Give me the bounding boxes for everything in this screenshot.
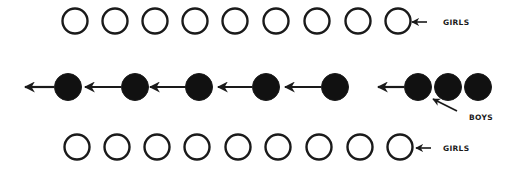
girl-circle bbox=[63, 9, 88, 34]
girls-label-bottom: GIRLS bbox=[443, 144, 469, 153]
girl-circle bbox=[65, 135, 90, 160]
boy-circle bbox=[322, 74, 349, 101]
girl-circle bbox=[145, 135, 170, 160]
boy-circle bbox=[122, 74, 149, 101]
boy-circle bbox=[405, 74, 432, 101]
girl-circle bbox=[223, 9, 248, 34]
girl-circle bbox=[105, 135, 130, 160]
boy-circle bbox=[465, 74, 492, 101]
rows-layer bbox=[25, 9, 492, 160]
girl-circle bbox=[185, 135, 210, 160]
girl-circle bbox=[307, 135, 332, 160]
girl-circle bbox=[305, 9, 330, 34]
girls-label-top: GIRLS bbox=[443, 18, 469, 27]
girl-circle bbox=[388, 135, 413, 160]
boy-circle bbox=[186, 74, 213, 101]
girl-circle bbox=[266, 135, 291, 160]
girl-circle bbox=[264, 9, 289, 34]
girl-circle bbox=[143, 9, 168, 34]
boy-circle bbox=[435, 74, 462, 101]
middle-boys-row bbox=[25, 74, 492, 112]
boys-label: BOYS bbox=[469, 113, 493, 122]
girl-circle bbox=[103, 9, 128, 34]
girl-circle bbox=[226, 135, 251, 160]
boy-circle bbox=[55, 74, 82, 101]
bottom-girls-row bbox=[65, 135, 432, 160]
boy-circle bbox=[253, 74, 280, 101]
girl-circle bbox=[386, 9, 411, 34]
formation-diagram: GIRLS BOYS GIRLS bbox=[0, 0, 514, 173]
top-girls-row bbox=[63, 9, 428, 34]
girl-circle bbox=[348, 135, 373, 160]
label-pointer-arrow-icon bbox=[433, 99, 457, 111]
girl-circle bbox=[346, 9, 371, 34]
girl-circle bbox=[183, 9, 208, 34]
